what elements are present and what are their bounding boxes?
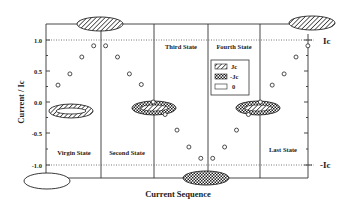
legend-swatch-empty (215, 84, 227, 89)
data-point (306, 44, 310, 48)
state-label-third: Third State (165, 43, 197, 50)
data-point (175, 128, 179, 132)
legend-swatch-checkered (215, 74, 227, 79)
y-axis-ticks (46, 40, 50, 165)
data-point (139, 83, 143, 87)
data-point (92, 44, 96, 48)
neg-ic-label: -Ic (320, 160, 331, 170)
data-point (294, 55, 298, 59)
checkered-hatched-ellipse-fourth (236, 101, 280, 115)
y-tick-label: 1.0 (34, 37, 42, 44)
state-label-last: Last State (269, 146, 297, 153)
y-tick-label: -0.5 (32, 130, 43, 137)
data-point (223, 145, 227, 149)
legend-label-zero: 0 (232, 83, 235, 90)
data-point (246, 113, 250, 117)
hatched-ring-ellipse (49, 104, 93, 118)
data-point (163, 113, 167, 117)
data-point (211, 156, 215, 160)
hatched-ellipse-top (77, 17, 123, 31)
legend-label-jc: Jc (231, 63, 237, 70)
data-point (151, 100, 155, 104)
chart-figure: 1.0 0.5 0.0 -0.5 -1.0 Current / Ic Curre… (0, 0, 350, 208)
data-point (199, 156, 203, 160)
data-points (56, 44, 310, 161)
state-label-fourth: Fourth State (216, 43, 251, 50)
data-point (80, 55, 84, 59)
state-label-virgin: Virgin State (57, 149, 91, 156)
data-point (258, 100, 262, 104)
state-label-second: Second State (109, 149, 145, 156)
data-point (270, 83, 274, 87)
data-point (187, 145, 191, 149)
data-point (127, 72, 131, 76)
hatched-ellipse-top-right (289, 16, 335, 30)
checkered-ellipse-bottom (183, 171, 229, 185)
y-tick-label: 0.0 (34, 99, 42, 106)
data-point (282, 72, 286, 76)
data-point (104, 44, 108, 48)
legend-swatch-hatched (215, 64, 227, 69)
data-point (56, 83, 60, 87)
data-point (116, 55, 120, 59)
ic-label: Ic (323, 36, 331, 46)
legend-label-neg-jc: -Jc (230, 73, 238, 80)
legend: Jc -Jc 0 (211, 60, 249, 95)
data-point (68, 72, 72, 76)
x-axis-title: Current Sequence (145, 189, 211, 199)
y-axis-title: Current / Ic (16, 80, 26, 124)
empty-ellipse-bottom-left (24, 173, 70, 189)
y-tick-label: 0.5 (34, 68, 43, 75)
data-point (235, 128, 239, 132)
y-tick-label: -1.0 (32, 162, 42, 169)
